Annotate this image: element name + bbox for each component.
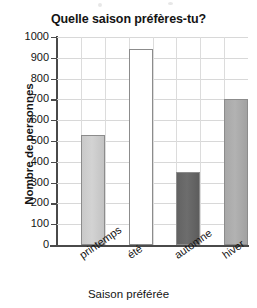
y-axis-tick-mark <box>51 120 57 121</box>
x-axis-tick-label: été <box>125 242 144 261</box>
y-axis-tick-mark <box>51 79 57 80</box>
y-axis-tick-mark <box>51 37 57 38</box>
y-axis-tick-mark <box>51 183 57 184</box>
x-axis-tick-label: automne <box>172 226 214 260</box>
bar-chart-figure: Quelle saison préfères-tu? Nombre de per… <box>0 0 257 308</box>
y-axis-tick-mark <box>51 224 57 225</box>
y-axis-tick-mark <box>51 245 57 246</box>
x-axis-tick-label: hiver <box>220 237 246 261</box>
x-axis-tick-label: printemps <box>77 223 123 261</box>
y-axis-tick-mark <box>51 141 57 142</box>
x-axis-tick-labels: printempsétéautomnehiver <box>0 0 257 308</box>
y-axis-tick-mark <box>51 99 57 100</box>
y-axis-tick-mark <box>51 162 57 163</box>
y-axis-tick-mark <box>51 58 57 59</box>
y-axis-tick-mark <box>51 203 57 204</box>
